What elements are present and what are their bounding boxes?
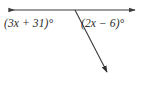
angle-label-left: (3x + 31)°: [4, 18, 53, 30]
geometry-figure: (3x + 31)° (2x − 6)°: [0, 0, 144, 91]
geometry-canvas: [0, 0, 144, 91]
angle-label-right: (2x − 6)°: [81, 18, 124, 30]
